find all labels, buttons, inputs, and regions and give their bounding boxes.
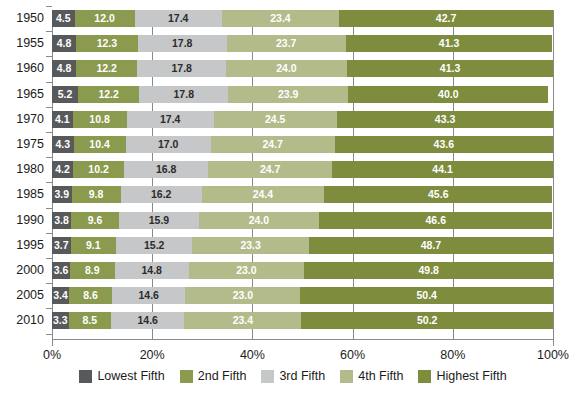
bar-segment: 23.0 — [185, 287, 300, 304]
y-axis-tick-mark — [46, 6, 52, 7]
x-axis-tick-label: 100% — [537, 348, 569, 362]
legend-swatch-icon — [418, 370, 431, 383]
bar-segment: 12.2 — [76, 60, 137, 77]
bar-segment: 17.8 — [138, 35, 227, 52]
bar-segment: 23.4 — [184, 312, 301, 329]
y-axis-tick-label: 1990 — [0, 212, 44, 229]
bar-segment: 8.9 — [70, 262, 115, 279]
bar-segment: 9.6 — [71, 212, 119, 229]
legend-label: Lowest Fifth — [97, 369, 164, 383]
x-axis-cap-right — [553, 339, 554, 346]
bar-row: 4.210.216.824.744.1 — [52, 161, 553, 178]
bar-segment: 4.8 — [52, 60, 76, 77]
legend-item[interactable]: 4th Fifth — [340, 369, 403, 383]
x-axis-tick-label: 40% — [240, 348, 265, 362]
bar-segment: 14.6 — [111, 312, 184, 329]
y-axis-tick-label: 1965 — [0, 86, 44, 103]
bar-segment: 4.3 — [52, 136, 74, 153]
bar-segment: 12.0 — [75, 10, 135, 27]
x-axis-line — [52, 339, 553, 340]
bar-segment: 9.8 — [72, 186, 121, 203]
gridline-100pct — [553, 10, 554, 339]
bar-segment: 12.2 — [78, 86, 139, 103]
bar-segment: 3.6 — [52, 262, 70, 279]
bar-row: 3.89.615.924.046.6 — [52, 212, 553, 229]
bar-segment: 50.2 — [301, 312, 553, 329]
y-axis-tick-label: 1950 — [0, 10, 44, 27]
x-axis-tick-label: 20% — [140, 348, 165, 362]
bar-segment: 23.7 — [227, 35, 346, 52]
bar-segment: 46.6 — [319, 212, 552, 229]
bar-segment: 4.1 — [52, 111, 73, 128]
bar-segment: 24.0 — [199, 212, 319, 229]
bar-segment: 24.5 — [214, 111, 337, 128]
legend-item[interactable]: Lowest Fifth — [79, 369, 164, 383]
bar-segment: 12.3 — [76, 35, 138, 52]
legend-item[interactable]: 2nd Fifth — [180, 369, 247, 383]
bar-segment: 10.8 — [73, 111, 127, 128]
bar-row: 3.99.816.224.445.6 — [52, 186, 553, 203]
bar-row: 5.212.217.823.940.0 — [52, 86, 553, 103]
bar-row: 3.48.614.623.050.4 — [52, 287, 553, 304]
bar-segment: 17.8 — [139, 86, 228, 103]
bar-segment: 44.1 — [332, 161, 553, 178]
bar-segment: 50.4 — [300, 287, 553, 304]
legend-swatch-icon — [261, 370, 274, 383]
bar-segment: 49.8 — [304, 262, 553, 279]
bar-segment: 48.7 — [309, 237, 553, 254]
bar-segment: 23.9 — [228, 86, 348, 103]
bar-segment: 14.8 — [115, 262, 189, 279]
y-axis-tick-label: 1960 — [0, 60, 44, 77]
bar-segment: 43.6 — [335, 136, 553, 153]
bar-row: 4.812.317.823.741.3 — [52, 35, 553, 52]
bar-segment: 41.3 — [346, 35, 553, 52]
bar-row: 3.79.115.223.348.7 — [52, 237, 553, 254]
bar-segment: 16.8 — [124, 161, 208, 178]
bar-segment: 41.3 — [347, 60, 554, 77]
bar-row: 4.310.417.024.743.6 — [52, 136, 553, 153]
bar-segment: 24.7 — [208, 161, 332, 178]
y-axis-tick-label: 1985 — [0, 186, 44, 203]
y-axis-tick-label: 2005 — [0, 287, 44, 304]
bar-segment: 16.2 — [121, 186, 202, 203]
bar-segment: 8.6 — [69, 287, 112, 304]
x-axis-tick-label: 80% — [440, 348, 465, 362]
x-axis-tick-label: 60% — [340, 348, 365, 362]
bar-segment: 14.6 — [112, 287, 185, 304]
bar-segment: 24.7 — [211, 136, 335, 153]
legend-swatch-icon — [180, 370, 193, 383]
bar-row: 3.68.914.823.049.8 — [52, 262, 553, 279]
y-axis-tick-label: 1970 — [0, 111, 44, 128]
legend-item[interactable]: Highest Fifth — [418, 369, 506, 383]
y-axis-tick-label: 1955 — [0, 35, 44, 52]
bar-segment: 4.8 — [52, 35, 76, 52]
y-axis-tick-label: 1995 — [0, 237, 44, 254]
legend-item[interactable]: 3rd Fifth — [261, 369, 325, 383]
bar-segment: 17.8 — [137, 60, 226, 77]
bar-segment: 43.3 — [337, 111, 554, 128]
x-axis-cap-left — [52, 339, 53, 346]
bar-segment: 15.2 — [116, 237, 192, 254]
bar-segment: 10.4 — [74, 136, 126, 153]
bar-segment: 24.4 — [202, 186, 324, 203]
bar-segment: 23.0 — [189, 262, 304, 279]
bar-segment: 17.4 — [135, 10, 222, 27]
bar-segment: 9.1 — [71, 237, 117, 254]
bar-segment: 10.2 — [73, 161, 124, 178]
y-axis-tick-label: 2000 — [0, 262, 44, 279]
bar-segment: 5.2 — [52, 86, 78, 103]
bar-row: 3.38.514.623.450.2 — [52, 312, 553, 329]
bar-row: 4.512.017.423.442.7 — [52, 10, 553, 27]
bar-segment: 15.9 — [119, 212, 199, 229]
stacked-bar-chart: 1950195519601965197019751980198519901995… — [0, 0, 586, 398]
bar-segment: 23.4 — [222, 10, 339, 27]
bar-segment: 3.8 — [52, 212, 71, 229]
x-axis-tick-label: 0% — [43, 348, 61, 362]
legend-label: 3rd Fifth — [279, 369, 325, 383]
bar-row: 4.110.817.424.543.3 — [52, 111, 553, 128]
bar-segment: 17.4 — [127, 111, 214, 128]
plot-area: 4.512.017.423.442.74.812.317.823.741.34.… — [52, 10, 553, 339]
bar-segment: 3.9 — [52, 186, 72, 203]
bar-segment: 40.0 — [348, 86, 548, 103]
y-axis-tick-label: 2010 — [0, 312, 44, 329]
